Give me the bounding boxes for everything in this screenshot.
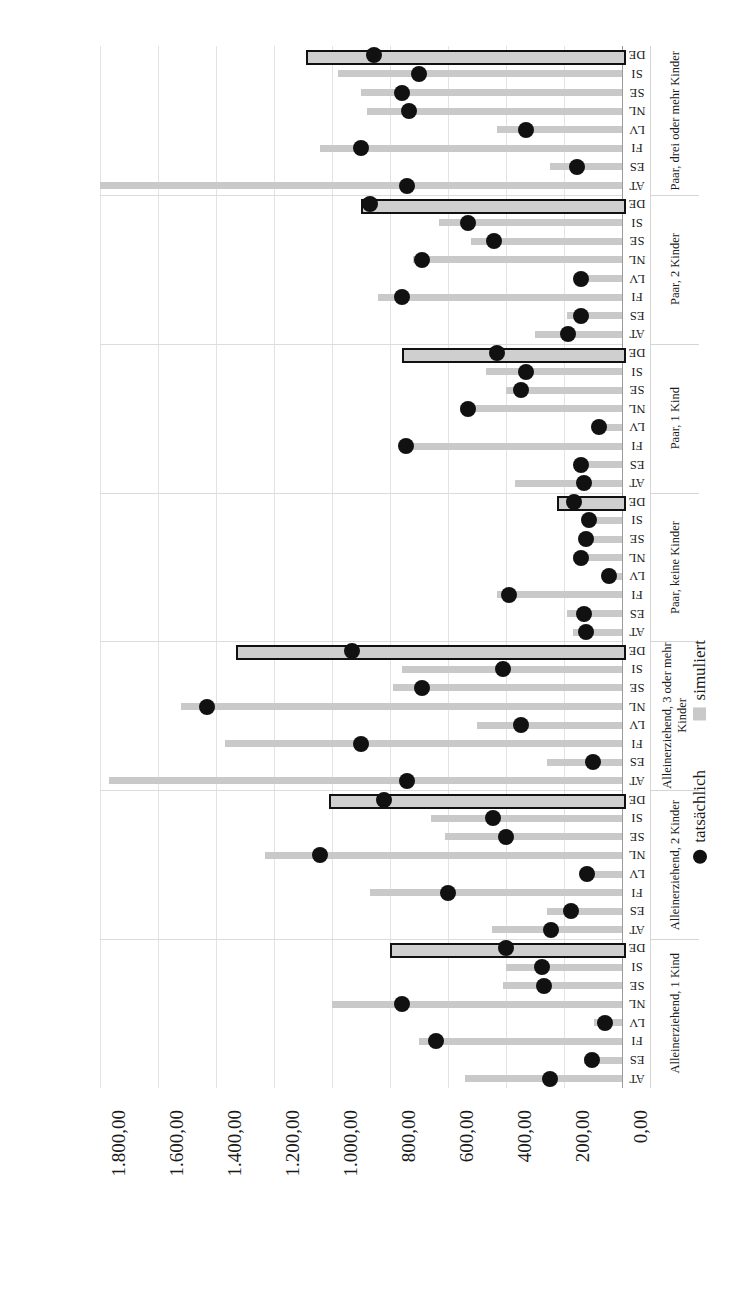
chart-row	[100, 623, 622, 642]
group-label-text: Alleinerziehend, 2 Kinder	[668, 800, 683, 930]
chart-row	[100, 921, 622, 940]
chart-row	[100, 772, 622, 791]
group-label-text: Paar, 2 Kinder	[668, 233, 683, 305]
category-label-fi: FI	[622, 141, 652, 155]
chart-row	[100, 734, 622, 753]
bar-simuliert	[477, 722, 622, 729]
category-label-lv: LV	[622, 1016, 652, 1030]
category-label-lv: LV	[622, 123, 652, 137]
category-label-si: SI	[622, 662, 652, 676]
category-label-si: SI	[622, 67, 652, 81]
tick-label: 1.400,00	[224, 1110, 246, 1177]
point-tatsaechlich	[486, 233, 502, 249]
category-label-nl: NL	[622, 253, 652, 267]
point-tatsaechlich	[362, 196, 378, 212]
bar-simuliert	[378, 294, 622, 301]
point-tatsaechlich	[394, 996, 410, 1012]
category-label-si: SI	[622, 960, 652, 974]
chart-row	[100, 1069, 622, 1088]
point-tatsaechlich	[591, 419, 607, 435]
category-label-se: SE	[622, 681, 652, 695]
chart-row	[100, 1032, 622, 1051]
category-label-at: AT	[622, 774, 652, 788]
tick-label: 1.800,00	[108, 1110, 130, 1177]
chart-row	[100, 362, 622, 381]
point-tatsaechlich	[353, 140, 369, 156]
chart-row	[100, 139, 622, 158]
chart-row	[100, 176, 622, 195]
chart-row	[100, 455, 622, 474]
point-tatsaechlich	[573, 308, 589, 324]
point-tatsaechlich	[573, 457, 589, 473]
category-label-se: SE	[622, 532, 652, 546]
chart-row	[100, 1014, 622, 1033]
chart-row	[100, 158, 622, 177]
chart-row	[100, 790, 622, 809]
chart-row	[100, 102, 622, 121]
group-label-text: Alleinerziehend, 3 oder mehr Kinder	[660, 641, 690, 790]
bar-simuliert	[515, 480, 622, 487]
chart-row	[100, 46, 622, 65]
chart-row	[100, 418, 622, 437]
group-label: Paar, drei oder mehr Kinder	[651, 46, 699, 195]
value-axis-tick-labels: 1.800,001.600,001.400,001.200,001.000,00…	[0, 1100, 750, 1220]
bar-simuliert	[413, 256, 622, 263]
bar-simuliert	[431, 815, 622, 822]
category-label-se: SE	[622, 979, 652, 993]
category-label-de: DE	[622, 495, 652, 509]
bar-simuliert	[445, 833, 622, 840]
legend-label-tatsaechlich: tatsächlich	[690, 770, 710, 843]
category-label-de: DE	[622, 941, 652, 955]
bar-simuliert	[236, 645, 626, 660]
bar-simuliert	[497, 126, 622, 133]
point-tatsaechlich	[398, 438, 414, 454]
chart-row	[100, 660, 622, 679]
chart-row	[100, 325, 622, 344]
group-label: Paar, keine Kinder	[651, 493, 699, 642]
bar-simuliert	[329, 794, 626, 809]
category-label-lv: LV	[622, 569, 652, 583]
group-axis-labels: Paar, drei oder mehr KinderPaar, 2 Kinde…	[650, 46, 699, 1088]
bar-simuliert	[402, 666, 622, 673]
chart-row	[100, 604, 622, 623]
point-tatsaechlich	[414, 680, 430, 696]
chart-row	[100, 344, 622, 363]
category-label-se: SE	[622, 86, 652, 100]
chart-row	[100, 548, 622, 567]
category-label-at: AT	[622, 1072, 652, 1086]
chart-row	[100, 232, 622, 251]
plot-area	[100, 46, 622, 1088]
category-label-de: DE	[622, 793, 652, 807]
chart-row	[100, 65, 622, 84]
chart-row	[100, 381, 622, 400]
legend-swatch-dot-icon	[693, 850, 707, 864]
point-tatsaechlich	[581, 512, 597, 528]
chart-row	[100, 1051, 622, 1070]
category-label-es: ES	[622, 904, 652, 918]
tick-label: 1.000,00	[340, 1110, 362, 1177]
category-label-nl: NL	[622, 402, 652, 416]
point-tatsaechlich	[460, 215, 476, 231]
chart-row	[100, 120, 622, 139]
group-label-text: Alleinerziehend, 1 Kind	[668, 953, 683, 1073]
chart-row	[100, 493, 622, 512]
legend-item-tatsaechlich: tatsächlich	[690, 770, 710, 864]
point-tatsaechlich	[344, 643, 360, 659]
category-label-fi: FI	[622, 439, 652, 453]
category-label-de: DE	[622, 644, 652, 658]
point-tatsaechlich	[513, 382, 529, 398]
point-tatsaechlich	[460, 401, 476, 417]
group-label-text: Paar, drei oder mehr Kinder	[668, 51, 683, 190]
bar-simuliert	[547, 908, 622, 915]
bar-simuliert	[503, 982, 622, 989]
category-label-lv: LV	[622, 718, 652, 732]
bar-simuliert	[109, 777, 622, 784]
chart-row	[100, 437, 622, 456]
bar-simuliert	[100, 182, 622, 189]
category-label-fi: FI	[622, 886, 652, 900]
tick-label: 600,00	[456, 1110, 478, 1162]
category-label-fi: FI	[622, 1034, 652, 1048]
chart-row	[100, 846, 622, 865]
tick-label: 1.200,00	[282, 1110, 304, 1177]
point-tatsaechlich	[578, 531, 594, 547]
